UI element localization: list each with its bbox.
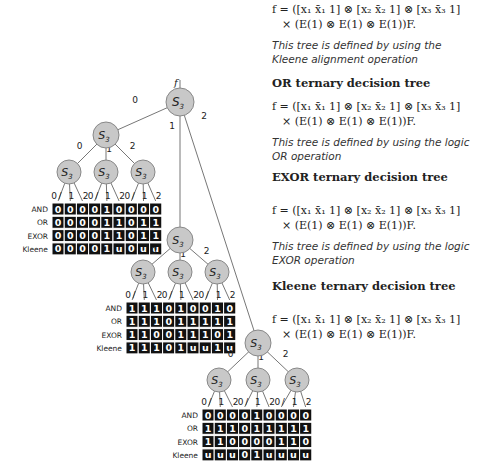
truth-value: 1 [254,423,261,434]
truth-value: 1 [153,316,160,327]
truth-value: 1 [153,303,160,314]
truth-value: 1 [178,329,185,340]
truth-value: 1 [153,342,160,353]
truth-value: 0 [217,410,224,421]
truth-value: 0 [152,204,159,215]
truth-value: 1 [202,329,209,340]
truth-value: 1 [226,316,233,327]
edge-label: Kleene [22,245,48,254]
truth-value: 1 [190,329,197,340]
truth-value: 0 [67,204,74,215]
truth-value: 0 [128,204,135,215]
description-note: This tree is defined by using the logic … [272,239,477,267]
truth-value: 1 [104,204,111,215]
truth-value: 0 [116,204,123,215]
truth-value: u [302,449,309,460]
truth-value: u [116,243,123,254]
truth-value: 0 [91,243,98,254]
truth-value: 0 [67,217,74,228]
edge-label: 1 [142,290,148,300]
truth-value: 0 [205,410,212,421]
truth-value: 1 [214,316,221,327]
edge-label: 0 [125,290,131,300]
edge-label: 0 [124,191,130,201]
edge-label: 1 [216,290,222,300]
truth-value: 0 [55,217,62,228]
truth-value: 0 [165,303,172,314]
edge-label: 2 [283,349,289,359]
edge-label: 0 [228,349,234,359]
truth-value: 0 [229,436,236,447]
truth-value: 1 [214,342,221,353]
truth-value: 1 [178,316,185,327]
edge-label: / [95,191,99,201]
formula: f = ([x₁ x̄₁ 1] ⊗ [x₂ x̄₂ 1] ⊗ [x₃ x̄₃ 1… [272,99,477,129]
edge-label: AND [105,304,122,313]
truth-value: 1 [104,230,111,241]
truth-value: 1 [226,329,233,340]
edge-label: 1 [169,121,175,131]
truth-value: 1 [141,342,148,353]
truth-value: 1 [254,449,261,460]
edge-label: 1 [292,397,298,407]
s3-node [245,330,271,356]
truth-value: 0 [190,303,197,314]
edge-label: Kleene [96,344,122,353]
edge-label: 0 [198,290,204,300]
formula-line-2: × (E(1) ⊗ E(1) ⊗ E(1))F. [272,114,477,129]
edge-label: 2 [204,246,210,256]
edge-label: 0 [132,95,138,105]
truth-value: 0 [241,436,248,447]
formula-line-1: f = ([x₁ x̄₁ 1] ⊗ [x₂ x̄₂ 1] ⊗ [x₃ x̄₃ 1… [272,203,477,218]
truth-value: 0 [128,230,135,241]
s3-node [166,88,194,116]
edge-label: / [133,290,137,300]
edge-label: OR [37,218,48,227]
truth-value: u [202,342,209,353]
truth-value: u [217,449,224,460]
truth-value: u [290,449,297,460]
formula-line-1: f = ([x₁ x̄₁ 1] ⊗ [x₂ x̄₂ 1] ⊗ [x₃ x̄₃ 1… [272,2,477,17]
truth-value: 0 [79,217,86,228]
truth-value: 0 [302,410,309,421]
edge-label: 1 [142,191,148,201]
formula: f = ([x₁ x̄₁ 1] ⊗ [x₂ x̄₂ 1] ⊗ [x₃ x̄₃ 1… [272,2,477,32]
edge-label: 2 [201,111,207,121]
truth-value: 0 [165,329,172,340]
truth-value: 1 [205,423,212,434]
edge-label: 1 [255,397,261,407]
formula-line-2: × (E(1) ⊗ E(1) ⊗ E(1))F. [272,327,477,342]
truth-value: 0 [67,243,74,254]
truth-value: 0 [214,329,221,340]
edge-label: 0 [238,397,244,407]
edge-label: EXOR [177,438,198,447]
truth-value: 0 [266,436,273,447]
truth-value: 1 [104,243,111,254]
truth-value: 0 [266,410,273,421]
truth-value: 0 [128,243,135,254]
edge-label: 0 [274,397,280,407]
formula-line-1: f = ([x₁ x̄₁ 1] ⊗ [x₂ x̄₂ 1] ⊗ [x₃ x̄₃ 1… [272,312,477,327]
edge-label: 2 [156,191,162,201]
description-note: This tree is defined by using the Kleene… [272,38,477,66]
truth-value: 1 [129,342,136,353]
truth-value: 1 [116,217,123,228]
truth-value: 1 [152,217,159,228]
truth-value: 0 [128,217,135,228]
truth-value: 0 [79,243,86,254]
description-note: This tree is defined by using the logic … [272,135,477,163]
edge-label: OR [111,317,122,326]
truth-value: 1 [104,217,111,228]
truth-value: 0 [140,204,147,215]
truth-value: 0 [55,230,62,241]
edge-label: 1 [179,290,185,300]
truth-value: 1 [214,303,221,314]
edge-label: / [282,397,286,407]
truth-value: 0 [67,230,74,241]
section-exor-tree: EXOR ternary decision tree f = ([x₁ x̄₁ … [272,170,477,267]
truth-value: 1 [141,303,148,314]
truth-value: 0 [290,410,297,421]
truth-value: 0 [302,436,309,447]
s3-node [93,122,119,148]
edge-label: / [59,191,63,201]
